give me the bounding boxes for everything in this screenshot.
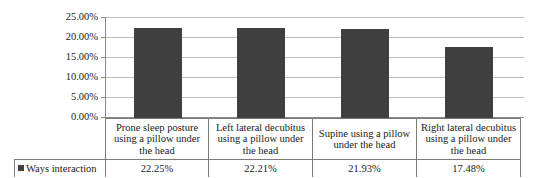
table-row-values: Ways interaction 22.25% 22.21% 21.93% 17… xyxy=(15,160,521,178)
table-row-categories: Prone sleep posture using a pillow under… xyxy=(15,119,521,160)
category-cell-3: Supine using a pillow under the head xyxy=(313,119,417,160)
y-tick-mark-15 xyxy=(101,57,105,58)
bar-slot-2 xyxy=(209,17,313,118)
bar-slot-3 xyxy=(313,17,417,118)
bar-prone-sleep-posture[interactable] xyxy=(134,28,182,118)
plot-area xyxy=(106,17,520,118)
y-tick-mark-20 xyxy=(101,37,105,38)
bar-slot-4 xyxy=(417,17,520,118)
y-tick-label-5: 5.00% xyxy=(46,92,98,103)
bar-chart-with-data-table: 25.00% 20.00% 15.00% 10.00% 5.00% 0.00% xyxy=(0,0,544,177)
series-color-swatch-icon xyxy=(18,165,24,171)
value-cell-4: 17.48% xyxy=(417,160,521,178)
y-tick-mark-25 xyxy=(101,17,105,18)
y-tick-label-10: 10.00% xyxy=(46,72,98,83)
value-cell-2: 22.21% xyxy=(209,160,313,178)
table-corner-spacer xyxy=(15,119,106,160)
legend-label: Ways interaction xyxy=(26,163,97,174)
value-cell-3: 21.93% xyxy=(313,160,417,178)
bar-right-lateral-decubitus[interactable] xyxy=(445,47,493,118)
value-cell-1: 22.25% xyxy=(106,160,209,178)
y-tick-label-20: 20.00% xyxy=(46,32,98,43)
legend-entry-ways-interaction[interactable]: Ways interaction xyxy=(15,160,106,178)
y-tick-label-15: 15.00% xyxy=(46,52,98,63)
chart-data-table: Prone sleep posture using a pillow under… xyxy=(14,118,521,177)
category-cell-1: Prone sleep posture using a pillow under… xyxy=(106,119,209,160)
category-cell-4: Right lateral decubitus using a pillow u… xyxy=(417,119,521,160)
y-tick-label-25: 25.00% xyxy=(46,12,98,23)
bar-slot-1 xyxy=(106,17,209,118)
y-tick-mark-10 xyxy=(101,77,105,78)
y-tick-mark-5 xyxy=(101,97,105,98)
bar-left-lateral-decubitus[interactable] xyxy=(237,28,285,118)
y-axis-tick-labels: 25.00% 20.00% 15.00% 10.00% 5.00% 0.00% xyxy=(44,0,98,130)
category-cell-2: Left lateral decubitus using a pillow un… xyxy=(209,119,313,160)
bar-supine[interactable] xyxy=(341,29,389,118)
